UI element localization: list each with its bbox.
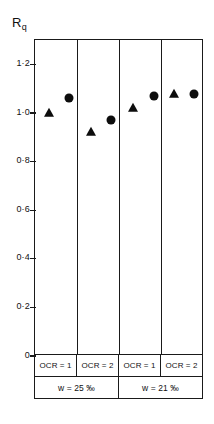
water-content-label-cell: w = 21 ‰ (119, 377, 202, 398)
y-axis-label-subscript: q (22, 22, 27, 32)
y-axis-tick-mark (30, 210, 36, 211)
ocr-label-row: OCR = 1OCR = 2OCR = 1OCR = 2 (34, 355, 203, 377)
chart-figure: Rq 1·21·00·80·60·40·20 OCR = 1OCR = 2OCR… (0, 0, 214, 424)
data-point-triangle (128, 103, 138, 112)
data-point-circle (149, 91, 158, 100)
y-axis-tick-label: 1·0 (16, 108, 30, 117)
y-axis-tick-label: 0·2 (16, 302, 30, 311)
ocr-label-cell: OCR = 2 (77, 355, 119, 376)
water-content-label-row: w = 25 ‰w = 21 ‰ (34, 377, 203, 399)
y-axis-tick-mark (30, 112, 36, 113)
panel-divider-3 (161, 40, 162, 354)
panel-divider-2 (119, 40, 120, 354)
y-axis-label-base: R (12, 15, 22, 30)
y-axis-tick-mark (30, 161, 36, 162)
y-axis-tick-label: 0·4 (16, 253, 30, 262)
y-axis-tick-mark (30, 307, 36, 308)
data-point-triangle (44, 108, 54, 117)
y-axis-tick-label: 1·2 (16, 59, 30, 68)
water-content-label-cell: w = 25 ‰ (35, 377, 119, 398)
y-axis-tick-label: 0·8 (16, 156, 30, 165)
ocr-label-cell: OCR = 1 (35, 355, 77, 376)
data-point-circle (190, 89, 199, 98)
y-axis-tick-mark (30, 258, 36, 259)
y-axis-tick-labels: 1·21·00·80·60·40·20 (0, 39, 30, 355)
y-axis-label: Rq (12, 16, 27, 34)
y-axis-tick-label: 0·6 (16, 205, 30, 214)
ocr-label-cell: OCR = 1 (119, 355, 161, 376)
data-point-circle (107, 116, 116, 125)
data-point-triangle (169, 88, 179, 97)
data-point-circle (65, 94, 74, 103)
ocr-label-cell: OCR = 2 (161, 355, 202, 376)
y-axis-tick-mark (30, 64, 36, 65)
panel-divider-1 (77, 40, 78, 354)
plot-area (34, 39, 203, 355)
data-point-triangle (86, 127, 96, 136)
